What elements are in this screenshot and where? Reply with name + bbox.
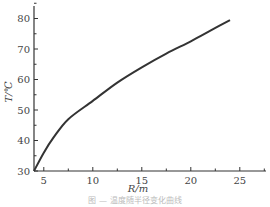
x-axis-label: R/m <box>127 183 148 194</box>
y-tick-label: 70 <box>17 44 30 55</box>
data-curve <box>34 20 230 171</box>
x-tick-label: 5 <box>41 175 47 186</box>
y-axis-label: T/℃ <box>3 81 14 102</box>
figure-caption: 图 — 温度随半径变化曲线 <box>0 194 270 205</box>
chart: 304050607080510152025R/mT/℃ <box>0 0 270 207</box>
y-tick-label: 30 <box>17 166 30 177</box>
x-tick-label: 25 <box>233 175 246 186</box>
y-tick-label: 40 <box>17 135 30 146</box>
plot-area: 304050607080510152025R/mT/℃ <box>3 3 266 194</box>
y-tick-label: 60 <box>17 74 30 85</box>
x-tick-label: 10 <box>86 175 99 186</box>
y-tick-label: 50 <box>17 105 30 116</box>
x-tick-label: 20 <box>184 175 197 186</box>
y-tick-label: 80 <box>17 13 30 24</box>
